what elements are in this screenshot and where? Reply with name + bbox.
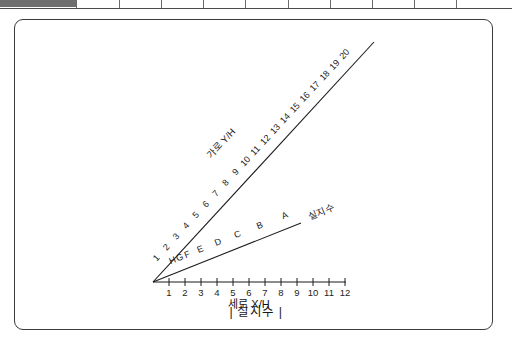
upper-line-label: 10 — [238, 154, 252, 168]
lower-line-label: C — [232, 228, 242, 240]
x-axis-tick-label: 4 — [214, 287, 219, 298]
upper-line-label: 16 — [298, 90, 312, 104]
x-axis-tick-label: 6 — [246, 287, 251, 298]
ruler-strip-divider — [414, 0, 415, 8]
upper-line-label: 13 — [268, 122, 282, 136]
upper-line-label: 2 — [161, 242, 172, 252]
ruler-strip-divider — [456, 0, 457, 8]
upper-line-label: 20 — [337, 47, 351, 61]
room-index-nomograph: 123456789101112 세로 X/H 12345678910111213… — [15, 20, 492, 329]
ruler-strip-divider — [203, 0, 204, 8]
x-axis-tick-label: 10 — [308, 287, 319, 298]
upper-line-label: 8 — [220, 177, 231, 187]
x-axis-tick-label: 8 — [278, 287, 283, 298]
lower-line-title: 실지수 — [307, 202, 336, 222]
upper-line-label: 11 — [248, 144, 262, 158]
ruler-strip-divider — [76, 0, 77, 8]
ruler-strip-divider — [245, 0, 246, 8]
ruler-strip-divider — [372, 0, 373, 8]
x-axis-tick-label: 2 — [182, 287, 187, 298]
lower-line-label: D — [213, 236, 223, 248]
upper-line-label: 12 — [258, 133, 272, 147]
x-axis-tick-label: 7 — [262, 287, 267, 298]
upper-line-label: 18 — [318, 68, 332, 82]
ruler-strip-divider — [288, 0, 289, 8]
lower-line-label: B — [255, 220, 264, 232]
upper-line-label: 3 — [171, 231, 182, 241]
lower-line-label: E — [196, 243, 205, 255]
lower-line-label: A — [280, 210, 289, 222]
upper-line-label: 19 — [327, 58, 341, 72]
upper-line-label: 9 — [230, 167, 241, 177]
upper-line-label: 5 — [191, 210, 202, 220]
upper-line-label: 4 — [181, 220, 192, 230]
ruler-strip — [0, 0, 512, 9]
x-axis-tick-label: 12 — [340, 287, 351, 298]
lower-diagonal-line: HGFEDCBA 실지수 — [153, 202, 336, 282]
upper-line-label: 7 — [210, 188, 221, 198]
upper-line-title: 가로 Y/H — [204, 126, 237, 160]
figure-caption: | 실지수 | — [0, 301, 512, 320]
upper-diagonal-line: 1234567891011121314151617181920 가로 Y/H — [151, 42, 374, 282]
upper-line-label: 15 — [288, 101, 302, 115]
ruler-strip-divider — [330, 0, 331, 8]
lower-line-label: F — [183, 248, 192, 260]
upper-line-label: 6 — [200, 199, 211, 209]
ruler-strip-divider — [161, 0, 162, 8]
figure-frame: 123456789101112 세로 X/H 12345678910111213… — [14, 19, 493, 330]
x-axis-tick-label: 5 — [230, 287, 235, 298]
x-axis-tick-label: 9 — [294, 287, 299, 298]
x-axis-tick-label: 3 — [198, 287, 203, 298]
x-axis-tick-label: 11 — [324, 287, 334, 298]
upper-line-label: 14 — [278, 111, 292, 125]
ruler-strip-fill — [0, 0, 76, 7]
upper-line-label: 1 — [151, 253, 162, 263]
ruler-strip-divider — [119, 0, 120, 8]
x-axis-tick-label: 1 — [166, 287, 171, 298]
upper-line-label: 17 — [308, 79, 322, 93]
